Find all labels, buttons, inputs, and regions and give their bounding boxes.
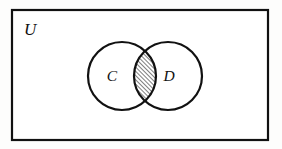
venn-diagram-figure: U C D bbox=[0, 0, 282, 149]
venn-diagram-canvas: U C D bbox=[0, 0, 282, 149]
set-c-label: C bbox=[107, 67, 118, 84]
universe-label: U bbox=[24, 20, 38, 39]
set-d-label: D bbox=[162, 67, 174, 84]
